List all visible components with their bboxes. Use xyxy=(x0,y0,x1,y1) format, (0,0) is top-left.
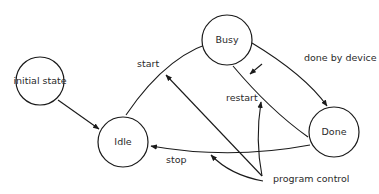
edge-initial-to-idle xyxy=(58,100,99,129)
state-done-label: Done xyxy=(322,126,347,137)
state-diagram: initial state Idle Busy Done start done … xyxy=(0,0,379,194)
pointer-to-restart xyxy=(258,102,262,176)
label-program-control: program control xyxy=(273,173,350,184)
state-busy-label: Busy xyxy=(215,34,238,45)
state-initial: initial state xyxy=(13,57,66,105)
state-idle: Idle xyxy=(98,117,148,167)
state-busy: Busy xyxy=(202,15,252,65)
label-done-by-device: done by device xyxy=(304,52,377,63)
label-start: start xyxy=(137,58,159,69)
pointer-to-done-by-device xyxy=(250,64,262,74)
label-stop: stop xyxy=(166,154,187,165)
label-restart: restart xyxy=(226,92,258,103)
state-done: Done xyxy=(309,107,359,157)
state-idle-label: Idle xyxy=(114,136,131,147)
state-initial-label: initial state xyxy=(13,75,66,86)
pointer-to-stop xyxy=(211,155,263,181)
edge-stop xyxy=(151,145,310,153)
